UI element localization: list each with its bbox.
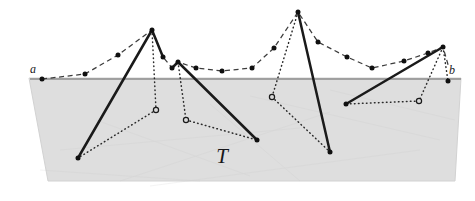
filled-vertex-marker [83, 72, 88, 77]
hollow-vertex-marker [269, 94, 274, 99]
label-endpoint-a: a [30, 62, 36, 76]
filled-vertex-marker [116, 53, 121, 58]
filled-vertex-marker [76, 156, 81, 161]
label-endpoint-b: b [449, 63, 455, 77]
filled-vertex-marker [161, 55, 166, 60]
solid-segment [152, 30, 163, 57]
hollow-vertex-marker [416, 98, 421, 103]
figure-canvas: abT [0, 0, 475, 201]
filled-vertex-marker [150, 28, 155, 33]
filled-vertex-marker [250, 66, 255, 71]
filled-vertex-marker [194, 66, 199, 71]
filled-vertex-marker [40, 77, 45, 82]
filled-vertex-marker [296, 10, 301, 15]
filled-vertex-marker [170, 66, 175, 71]
filled-vertex-marker [345, 55, 350, 60]
filled-vertex-marker [255, 138, 260, 143]
filled-vertex-marker [176, 60, 181, 65]
hollow-vertex-marker [183, 117, 188, 122]
filled-vertex-marker [446, 79, 451, 84]
dashed-polyline [42, 12, 449, 79]
filled-vertex-marker [402, 59, 407, 64]
geometric-diagram-svg: abT [0, 0, 475, 201]
filled-vertex-marker [272, 46, 277, 51]
hollow-vertex-marker [153, 107, 158, 112]
filled-vertex-marker [426, 51, 431, 56]
filled-vertex-marker [441, 45, 446, 50]
filled-vertex-marker [328, 150, 333, 155]
filled-vertex-marker [344, 102, 349, 107]
filled-vertex-marker [370, 66, 375, 71]
label-region-T: T [216, 144, 229, 168]
filled-vertex-marker [316, 40, 321, 45]
filled-vertex-marker [220, 69, 225, 74]
